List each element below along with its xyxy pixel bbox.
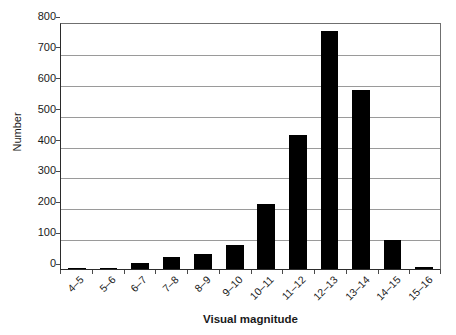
x-axis-tick-label-text: 7–8 [161, 274, 181, 294]
bar [352, 90, 370, 269]
y-axis-tick-label: 600 [22, 73, 56, 84]
x-axis-tick-label: 12–13 [330, 274, 331, 275]
y-axis-tick-label: 300 [22, 165, 56, 176]
x-axis-tick-label: 13–14 [362, 274, 363, 275]
x-axis-tick-label: 15–16 [426, 274, 427, 275]
plot-area [60, 23, 441, 270]
bar-slot [93, 24, 125, 269]
bar [384, 240, 402, 269]
bar-slot [345, 24, 377, 269]
bar-slot [219, 24, 251, 269]
x-axis-tick-label-text: 14–15 [375, 274, 403, 302]
y-axis-tick-label: 400 [22, 135, 56, 146]
x-axis-tick-labels: 4–55–66–77–88–99–1010–1111–1212–1313–141… [60, 274, 441, 314]
x-axis-tick-label: 5–6 [108, 274, 109, 275]
x-axis-tick-label: 8–9 [203, 274, 204, 275]
x-axis-tick-label: 14–15 [394, 274, 395, 275]
x-axis-tick-label: 11–12 [299, 274, 300, 275]
x-axis-tick-label: 7–8 [172, 274, 173, 275]
bar [226, 245, 244, 269]
y-axis-tick-labels: 0100200300400500600700800 [22, 17, 56, 265]
bar [321, 31, 339, 269]
x-axis-tick-label-text: 9–10 [220, 274, 244, 298]
y-axis-tick-label: 700 [22, 42, 56, 53]
bar [415, 267, 433, 269]
x-axis-tick-label-text: 4–5 [65, 274, 85, 294]
bar-slot [124, 24, 156, 269]
bar-slot [250, 24, 282, 269]
bar-slot [61, 24, 93, 269]
x-axis-tick-label-text: 8–9 [192, 274, 212, 294]
bar-series [61, 24, 440, 269]
x-axis-tick-label-text: 11–12 [280, 274, 308, 302]
x-axis-tick-label: 10–11 [267, 274, 268, 275]
bar [163, 257, 181, 269]
bar [257, 204, 275, 269]
x-axis-tick-label-text: 15–16 [406, 274, 434, 302]
x-axis-tick-label-text: 10–11 [248, 274, 276, 302]
x-axis-title: Visual magnitude [60, 313, 441, 325]
x-axis-tick-label: 9–10 [235, 274, 236, 275]
x-axis-tick-label-text: 5–6 [97, 274, 117, 294]
bar-chart: Number 0100200300400500600700800 4–55–66… [0, 0, 456, 335]
bar [289, 135, 307, 269]
bar-slot [377, 24, 409, 269]
y-axis-tick-label: 200 [22, 196, 56, 207]
bar-slot [408, 24, 440, 269]
y-axis-tick-label: 500 [22, 104, 56, 115]
y-axis-tick-label: 0 [22, 258, 56, 269]
x-axis-tick-label-text: 12–13 [311, 274, 339, 302]
bar-slot [282, 24, 314, 269]
x-axis-tick-label: 6–7 [140, 274, 141, 275]
bar [194, 254, 212, 269]
bar [131, 263, 149, 269]
y-axis-tick-mark [56, 17, 60, 18]
bar-slot [156, 24, 188, 269]
x-axis-tick-label-text: 13–14 [343, 274, 371, 302]
y-axis-tick-label: 100 [22, 227, 56, 238]
bar [68, 268, 86, 269]
x-axis-tick-label: 4–5 [76, 274, 77, 275]
bar-slot [314, 24, 346, 269]
bar [100, 268, 118, 269]
bar-slot [187, 24, 219, 269]
x-axis-tick-label-text: 6–7 [129, 274, 149, 294]
y-axis-tick-label: 800 [22, 11, 56, 22]
